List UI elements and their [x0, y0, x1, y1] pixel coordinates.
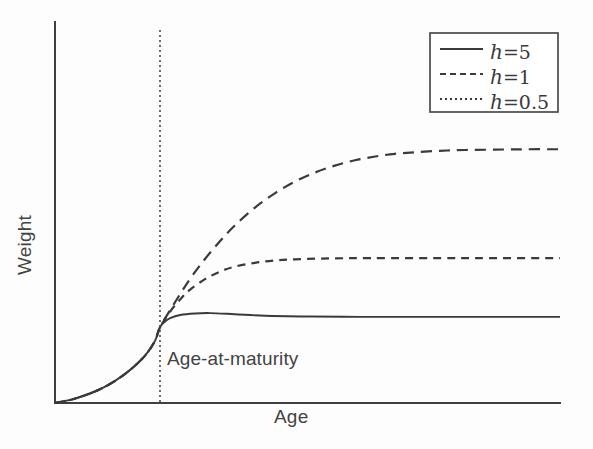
- curve-h-1: [55, 149, 560, 403]
- curve-h-0-5: [55, 258, 560, 403]
- legend-value-h-0-5: 0.5: [519, 91, 549, 113]
- x-axis-label: Age: [274, 406, 308, 428]
- legend-symbol-h-0-5: h: [490, 90, 503, 114]
- y-axis-label: Weight: [14, 180, 36, 310]
- legend-value-h-1: 1: [519, 66, 531, 88]
- growth-curve-figure: Weight Age Age-at-maturity h=5 h=1 h=0.5: [0, 0, 593, 449]
- age-at-maturity-label: Age-at-maturity: [167, 348, 298, 370]
- legend-operator-h-1: =: [503, 66, 519, 88]
- legend-symbol-h-1: h: [490, 65, 503, 89]
- curve-h-5: [55, 313, 560, 403]
- legend-symbol-h-5: h: [490, 40, 503, 64]
- legend-label-h-0-5: h=0.5: [490, 90, 549, 114]
- legend-operator-h-5: =: [503, 41, 519, 63]
- legend-label-h-1: h=1: [490, 65, 531, 89]
- legend-value-h-5: 5: [519, 41, 531, 63]
- legend-operator-h-0-5: =: [503, 91, 519, 113]
- legend-label-h-5: h=5: [490, 40, 531, 64]
